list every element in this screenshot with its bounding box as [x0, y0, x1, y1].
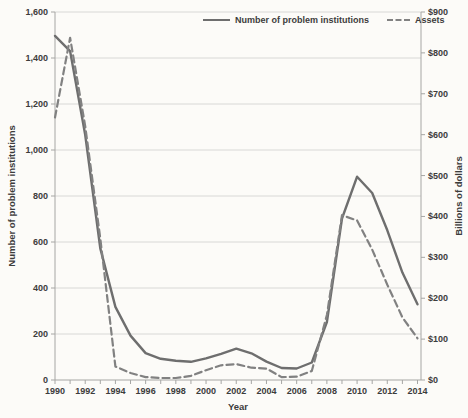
chart-container: 02004006008001,0001,2001,4001,600$0$100$…	[0, 0, 468, 418]
series-assets-line	[55, 38, 418, 378]
x-tick-label: 1998	[166, 386, 186, 396]
y-left-tick-label: 1,600	[25, 7, 48, 17]
x-tick-label: 2006	[287, 386, 307, 396]
y-right-tick-label: $700	[428, 89, 448, 99]
x-tick-label: 2014	[407, 386, 427, 396]
y-right-tick-label: $500	[428, 171, 448, 181]
y-right-tick-label: $600	[428, 130, 448, 140]
y-left-tick-label: 1,400	[25, 53, 48, 63]
x-tick-label: 2008	[317, 386, 337, 396]
y-left-tick-label: 1,200	[25, 99, 48, 109]
legend-label-assets: Assets	[415, 15, 445, 25]
y-left-tick-label: 400	[33, 283, 48, 293]
y-right-tick-label: $800	[428, 48, 448, 58]
left-axis-title: Number of problem institutions	[6, 125, 17, 266]
y-left-tick-label: 0	[43, 375, 48, 385]
y-left-tick-label: 200	[33, 329, 48, 339]
legend-item-institutions: Number of problem institutions	[203, 15, 369, 25]
x-tick-label: 2010	[347, 386, 367, 396]
right-axis-title: Billions of dollars	[453, 156, 464, 236]
legend-label-institutions: Number of problem institutions	[235, 15, 369, 25]
y-right-tick-label: $200	[428, 293, 448, 303]
y-left-tick-label: 800	[33, 191, 48, 201]
y-right-tick-label: $0	[428, 375, 438, 385]
x-tick-label: 2004	[256, 386, 276, 396]
chart-svg: 02004006008001,0001,2001,4001,600$0$100$…	[0, 0, 468, 418]
dashed-line-icon	[387, 19, 410, 21]
x-tick-label: 1996	[136, 386, 156, 396]
legend: Number of problem institutions Assets	[203, 15, 445, 25]
y-right-tick-label: $100	[428, 334, 448, 344]
y-left-tick-label: 600	[33, 237, 48, 247]
legend-item-assets: Assets	[387, 15, 445, 25]
x-axis-title: Year	[55, 401, 421, 412]
x-tick-label: 2002	[226, 386, 246, 396]
y-right-tick-label: $300	[428, 252, 448, 262]
x-tick-label: 1992	[75, 386, 95, 396]
x-tick-label: 2012	[377, 386, 397, 396]
solid-line-icon	[203, 19, 230, 21]
x-tick-label: 1994	[105, 386, 125, 396]
y-right-tick-label: $400	[428, 211, 448, 221]
x-tick-label: 2000	[196, 386, 216, 396]
x-tick-label: 1990	[45, 386, 65, 396]
y-left-tick-label: 1,000	[25, 145, 48, 155]
